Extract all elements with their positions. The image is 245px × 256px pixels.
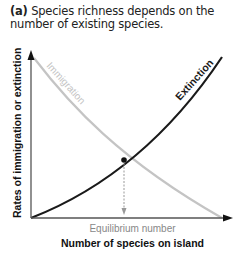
- y-axis-label: Rates of immigration or extinction: [11, 48, 23, 218]
- island-biogeography-chart: Immigration Extinction: [0, 0, 245, 256]
- immigration-label: Immigration: [45, 60, 88, 106]
- equilibrium-number-label: Equilibrium number: [0, 223, 245, 234]
- x-axis-label: Number of species on island: [0, 237, 245, 249]
- equilibrium-arrow-icon: [122, 208, 127, 215]
- equilibrium-point: [121, 157, 127, 163]
- y-axis-arrow-icon: [28, 50, 35, 60]
- x-axis-arrow-icon: [223, 215, 233, 222]
